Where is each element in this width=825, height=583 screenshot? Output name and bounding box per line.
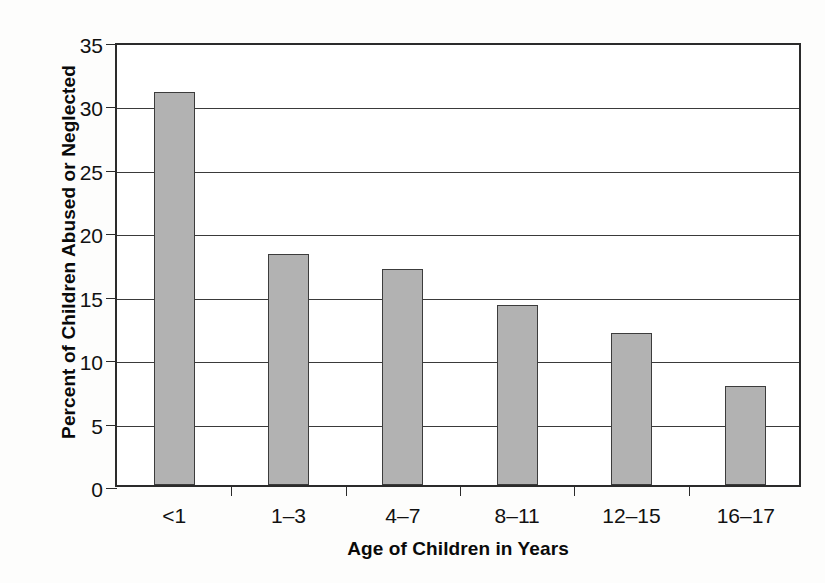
y-axis-tick-label: 20: [80, 225, 103, 246]
y-axis-tick-mark: [106, 107, 117, 108]
plot-area: 05101520253035<11–34–78–1112–1516–17: [115, 43, 801, 487]
gridline: [117, 235, 799, 236]
x-axis-tick-mark: [689, 485, 690, 496]
y-axis-tick-mark: [106, 298, 117, 299]
y-axis-tick-label: 10: [80, 352, 103, 373]
y-axis-tick-mark: [106, 361, 117, 362]
bar: [154, 92, 195, 485]
y-axis-tick-mark: [106, 425, 117, 426]
gridline: [117, 108, 799, 109]
y-axis-tick-mark: [106, 171, 117, 172]
gridline: [117, 172, 799, 173]
gridline: [117, 426, 799, 427]
gridline: [117, 299, 799, 300]
x-axis-tick-label: 12–15: [602, 505, 660, 526]
x-axis-tick-mark: [346, 485, 347, 496]
bar: [725, 386, 766, 485]
gridline: [117, 362, 799, 363]
y-axis-tick-mark: [106, 234, 117, 235]
y-axis-tick-label: 30: [80, 98, 103, 119]
bar: [611, 333, 652, 485]
y-axis-tick-mark: [106, 44, 117, 45]
bar: [268, 254, 309, 485]
x-axis-tick-label: 1–3: [271, 505, 306, 526]
x-axis-tick-label: 8–11: [495, 505, 540, 526]
bar: [497, 305, 538, 485]
x-axis-tick-mark: [460, 485, 461, 496]
y-axis-tick-label: 15: [80, 288, 103, 309]
y-axis-tick-label: 5: [91, 415, 103, 436]
x-axis-tick-mark: [574, 485, 575, 496]
y-axis-tick-label: 35: [80, 35, 103, 56]
bar-chart-figure: Percent of Children Abused or Neglected …: [0, 0, 825, 583]
y-axis-title: Percent of Children Abused or Neglected: [46, 6, 92, 498]
x-axis-tick-mark: [231, 485, 232, 496]
bar: [382, 269, 423, 485]
y-axis-tick-label: 25: [80, 161, 103, 182]
x-axis-title: Age of Children in Years: [115, 538, 801, 560]
x-axis-tick-label: <1: [162, 505, 186, 526]
x-axis-tick-label: 16–17: [717, 505, 775, 526]
x-axis-tick-label: 4–7: [385, 505, 420, 526]
y-axis-tick-mark: [106, 488, 117, 489]
y-axis-tick-label: 0: [91, 479, 103, 500]
